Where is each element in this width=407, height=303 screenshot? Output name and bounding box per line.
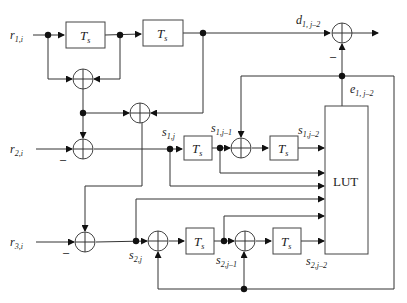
sum-f xyxy=(148,231,168,251)
minus-sign-out: – xyxy=(330,50,337,62)
label-e1: e1, j–2 xyxy=(350,82,374,98)
label-s2j1: s2,j–1 xyxy=(216,253,237,269)
delay-block-1: Ts xyxy=(66,22,105,48)
delay-block-4: Ts xyxy=(270,136,298,160)
minus-sign-r3: – xyxy=(63,246,70,258)
label-s1j: s1,j xyxy=(162,125,176,141)
block-diagram: Ts Ts Ts Ts Ts Ts LUT xyxy=(0,0,407,303)
sum-a xyxy=(73,69,93,89)
minus-sign-r2: – xyxy=(60,153,67,165)
sum-out xyxy=(332,23,352,43)
label-r3: r3,i xyxy=(10,235,23,251)
sum-e xyxy=(75,232,95,252)
label-s1j1: s1,j–1 xyxy=(211,121,232,137)
svg-text:LUT: LUT xyxy=(333,174,358,189)
label-s2j2: s2,j–2 xyxy=(306,254,327,270)
label-r2: r2,i xyxy=(10,142,23,158)
delay-block-2: Ts xyxy=(143,20,183,46)
label-s1j2: s1,j–2 xyxy=(298,123,319,139)
sum-b xyxy=(130,103,150,123)
delay-block-3: Ts xyxy=(184,136,212,160)
sum-g xyxy=(235,231,255,251)
delay-block-5: Ts xyxy=(186,228,214,254)
label-r1: r1,i xyxy=(10,28,23,44)
delay-block-6: Ts xyxy=(273,228,301,254)
label-d1: d1, j–2 xyxy=(296,13,320,29)
label-s2j: s2,j xyxy=(129,248,143,264)
sum-d xyxy=(231,138,251,158)
sum-c xyxy=(73,139,93,159)
lut-block: LUT xyxy=(325,106,368,254)
